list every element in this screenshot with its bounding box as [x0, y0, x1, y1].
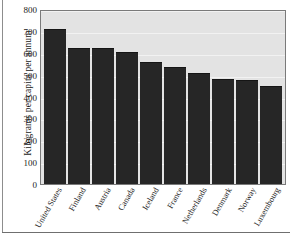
x-axis-category-labels: United StatesFinlandAustriaCanadaIceland…: [40, 186, 286, 241]
bar: [92, 48, 114, 184]
bar-chart-figure: Kilograms per capita per annum 010020030…: [0, 0, 294, 241]
y-tick-label: 100: [24, 158, 38, 168]
y-tick-label: 200: [24, 136, 38, 146]
y-tick-label: 300: [24, 114, 38, 124]
y-tick-label: 500: [24, 71, 38, 81]
y-tick-label: 400: [24, 93, 38, 103]
bar: [44, 29, 66, 184]
y-tick-label: 0: [33, 180, 38, 190]
y-tick-label: 800: [24, 5, 38, 15]
page-left-rule: [2, 0, 3, 232]
y-tick-label: 600: [24, 49, 38, 59]
y-tick-label: 700: [24, 27, 38, 37]
bar: [116, 52, 138, 184]
y-axis-tick-labels: 0100200300400500600700800: [16, 10, 37, 185]
